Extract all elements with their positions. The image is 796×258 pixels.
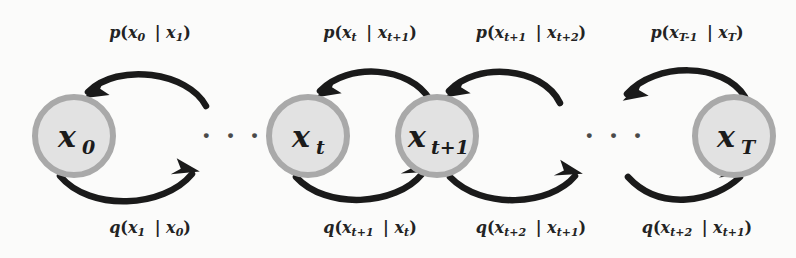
label-arg: x bbox=[127, 23, 138, 42]
node-label-base: x bbox=[57, 119, 77, 154]
arc-q-2 bbox=[450, 176, 575, 200]
label-fn: q bbox=[476, 218, 487, 237]
node-label-base: x bbox=[407, 119, 427, 154]
arc-p-2 bbox=[449, 72, 560, 103]
label-fn: p bbox=[323, 23, 334, 42]
svg-text:q(x1 | x0): q(x1 | x0) bbox=[109, 218, 191, 239]
svg-text:p(xt | xt+1): p(xt | xt+1) bbox=[323, 23, 416, 44]
svg-text:p(xt+1 | xt+2): p(xt+1 | xt+2) bbox=[476, 23, 586, 44]
bottom-label-q-x1-x0: q(x1 | x0) bbox=[109, 218, 191, 239]
label-given: x bbox=[717, 23, 728, 42]
label-arg-sub: T-1 bbox=[679, 31, 698, 44]
label-arg: x bbox=[668, 23, 679, 42]
label-arg: x bbox=[127, 218, 138, 237]
label-arg-sub: 1 bbox=[137, 226, 145, 239]
label-given-sub: t+1 bbox=[387, 31, 409, 44]
node-xt1[interactable]: x t+1 bbox=[398, 97, 476, 175]
label-arg-sub: t+1 bbox=[352, 226, 374, 239]
label-arg: x bbox=[494, 218, 505, 237]
svg-text:q(xt+1 | xt): q(xt+1 | xt) bbox=[323, 218, 416, 239]
diagram-canvas: x 0 x t x t+1 x T · · · · · · p(x0 | x1) bbox=[0, 0, 796, 258]
bottom-arcs-group bbox=[60, 157, 749, 201]
label-given: x bbox=[165, 23, 176, 42]
label-given: x bbox=[546, 218, 557, 237]
top-label-p-xT1-xT: p(xT-1 | xT) bbox=[650, 23, 743, 44]
label-given: x bbox=[712, 218, 723, 237]
arc-p-3 bbox=[627, 70, 745, 97]
top-label-p-xt-xt1: p(xt | xt+1) bbox=[323, 23, 416, 44]
svg-text:p(x0 | x1): p(x0 | x1) bbox=[109, 23, 191, 44]
label-fn: q bbox=[642, 218, 653, 237]
label-arg: x bbox=[494, 23, 505, 42]
node-label-subscript: t+1 bbox=[431, 136, 469, 158]
top-label-p-x0-x1: p(x0 | x1) bbox=[109, 23, 191, 44]
label-given: x bbox=[377, 23, 388, 42]
label-fn: q bbox=[323, 218, 334, 237]
label-given: x bbox=[546, 23, 557, 42]
node-label-subscript: T bbox=[741, 136, 757, 158]
arc-q-1 bbox=[296, 174, 422, 200]
arc-p-0 bbox=[88, 74, 206, 106]
label-given: x bbox=[394, 218, 405, 237]
label-fn: q bbox=[109, 218, 120, 237]
node-xt[interactable]: x t bbox=[269, 97, 347, 175]
arc-q-3 bbox=[628, 177, 740, 200]
svg-text:p(xT-1 | xT): p(xT-1 | xT) bbox=[650, 23, 743, 44]
bottom-label-q-xt2-xt1: q(xt+2 | xt+1) bbox=[476, 218, 586, 239]
top-arcs-group bbox=[80, 70, 745, 106]
label-given: x bbox=[165, 218, 176, 237]
label-given-sub: t+1 bbox=[723, 226, 745, 239]
label-given-sub: t+1 bbox=[557, 226, 579, 239]
svg-text:q(xt+2 | xt+1): q(xt+2 | xt+1) bbox=[642, 218, 752, 239]
svg-text:q(xt+2 | xt+1): q(xt+2 | xt+1) bbox=[476, 218, 586, 239]
label-arg-sub: 0 bbox=[137, 31, 145, 44]
ellipsis-left: · · · bbox=[202, 121, 262, 151]
label-arg: x bbox=[341, 23, 352, 42]
node-label-subscript: 0 bbox=[82, 136, 95, 158]
node-label-subscript: t bbox=[316, 136, 325, 158]
label-fn: p bbox=[476, 23, 487, 42]
label-arg-sub: t+2 bbox=[504, 226, 526, 239]
label-fn: p bbox=[109, 23, 120, 42]
label-arg: x bbox=[660, 218, 671, 237]
label-arg-sub: t bbox=[352, 31, 357, 44]
top-label-p-xt1-xt2: p(xt+1 | xt+2) bbox=[476, 23, 586, 44]
arc-p-1 bbox=[320, 72, 430, 100]
arc-q-0 bbox=[60, 174, 192, 201]
ellipsis-right: · · · bbox=[585, 121, 645, 151]
node-x0[interactable]: x 0 bbox=[35, 97, 113, 175]
bottom-label-q-xt1-xt: q(xt+1 | xt) bbox=[323, 218, 416, 239]
node-label-base: x bbox=[716, 119, 736, 154]
label-fn: p bbox=[650, 23, 661, 42]
label-given-sub: t+2 bbox=[557, 31, 579, 44]
label-arg-sub: t+2 bbox=[670, 226, 692, 239]
node-xT[interactable]: x T bbox=[695, 97, 773, 175]
node-label-base: x bbox=[291, 119, 311, 154]
label-arg: x bbox=[341, 218, 352, 237]
label-given-sub: 1 bbox=[176, 31, 184, 44]
diffusion-markov-chain-figure: x 0 x t x t+1 x T · · · · · · p(x0 | x1) bbox=[0, 0, 796, 258]
bottom-label-q-xt2-xt1-right: q(xt+2 | xt+1) bbox=[642, 218, 752, 239]
label-arg-sub: t+1 bbox=[504, 31, 526, 44]
